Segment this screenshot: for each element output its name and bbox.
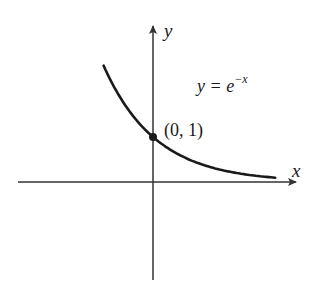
x-axis-label: x <box>292 160 300 182</box>
equation-base: y = e <box>197 76 234 96</box>
y-axis-label: y <box>164 20 172 42</box>
plot-canvas <box>0 0 318 288</box>
exponential-decay-figure: x y y = e−x (0, 1) <box>0 0 318 288</box>
point-label: (0, 1) <box>164 120 203 141</box>
point-0-1-marker <box>149 133 157 141</box>
equation-exponent: −x <box>234 72 247 86</box>
equation-label: y = e−x <box>197 74 248 97</box>
